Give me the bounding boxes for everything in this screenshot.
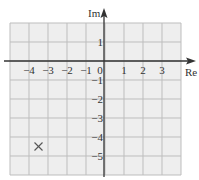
y-tick-label: −3 bbox=[91, 112, 103, 124]
x-tick-label: −3 bbox=[42, 64, 54, 76]
y-tick-label: 1 bbox=[98, 36, 104, 48]
imaginary-axis-label: Im bbox=[88, 7, 101, 19]
x-tick-label: 3 bbox=[159, 64, 165, 76]
y-tick-label: −2 bbox=[91, 93, 103, 105]
real-axis-label: Re bbox=[185, 66, 197, 78]
x-tick-label: 2 bbox=[140, 64, 146, 76]
y-tick-label: −5 bbox=[91, 150, 103, 162]
x-tick-label: −1 bbox=[80, 64, 92, 76]
x-tick-label: −2 bbox=[61, 64, 73, 76]
y-tick-label: −1 bbox=[91, 74, 103, 86]
x-tick-label: −4 bbox=[23, 64, 35, 76]
y-tick-label: −4 bbox=[91, 131, 103, 143]
argand-diagram: Re Im −4−3−2−10123 1−1−2−3−4−5 bbox=[0, 0, 199, 180]
x-tick-label: 1 bbox=[121, 64, 127, 76]
